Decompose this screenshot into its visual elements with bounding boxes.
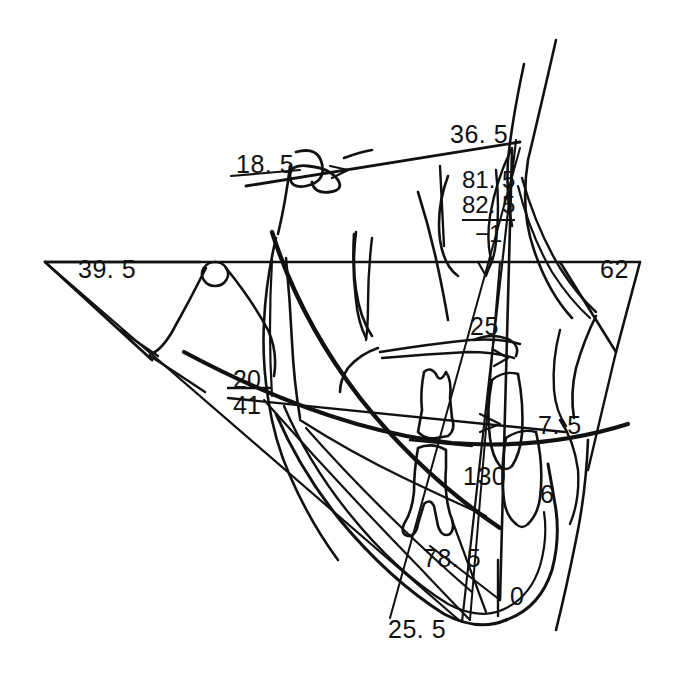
tracing-drawing xyxy=(0,0,681,682)
measurement-36-5: 36. 5 xyxy=(450,122,508,147)
measurement-62: 62 xyxy=(600,257,629,282)
measurement-stack-maxilla: 81. 5 82. 5 −1 xyxy=(462,168,515,247)
measurement-6: 6 xyxy=(540,482,554,507)
figure-background xyxy=(0,0,681,682)
measurement-7-5: 7. 5 xyxy=(538,413,582,438)
measurement-25: 25 xyxy=(470,314,499,339)
stack-line-41: 41 xyxy=(233,392,261,418)
stack-line-82-5: 82. 5 xyxy=(462,193,515,218)
measurement-18-5: 18. 5 xyxy=(236,152,294,177)
measurement-stack-ramus: 20 41 xyxy=(233,366,261,418)
measurement-25-5: 25. 5 xyxy=(388,617,446,642)
measurement-39-5: 39. 5 xyxy=(78,257,136,282)
stack-line-minus-1: −1 xyxy=(475,222,502,247)
cephalometric-tracing-figure: 18. 5 36. 5 39. 5 62 25 7. 5 6 130 78. 5… xyxy=(0,0,681,682)
measurement-78-5: 78. 5 xyxy=(423,546,481,571)
measurement-130: 130 xyxy=(463,464,506,489)
stack-line-20: 20 xyxy=(233,366,261,392)
stack-line-81-5: 81. 5 xyxy=(462,168,515,193)
measurement-0: 0 xyxy=(510,584,524,609)
